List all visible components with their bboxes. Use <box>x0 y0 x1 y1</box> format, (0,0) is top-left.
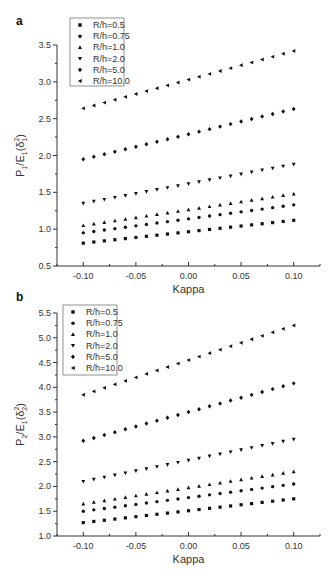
data-point <box>123 471 127 475</box>
legend-label: R/h=0.75 <box>86 318 123 328</box>
data-point <box>124 516 127 519</box>
data-point <box>165 365 169 369</box>
data-point <box>229 504 232 507</box>
data-point <box>186 358 190 362</box>
data-point <box>292 323 296 327</box>
axes: 1.01.52.02.53.03.54.04.55.05.5-0.10-0.05… <box>13 308 320 565</box>
data-point <box>239 448 243 452</box>
data-point <box>292 482 295 485</box>
data-point <box>102 386 106 390</box>
data-point <box>134 503 137 506</box>
data-point <box>123 427 127 431</box>
data-point <box>145 421 149 425</box>
data-point <box>197 355 201 359</box>
data-point <box>103 507 106 510</box>
data-point <box>123 379 127 383</box>
data-point <box>208 493 211 496</box>
data-point <box>250 446 254 450</box>
data-point <box>250 502 253 505</box>
chart-b-plot: 1.01.52.02.53.03.54.04.55.05.5-0.10-0.05… <box>0 0 336 583</box>
data-point <box>218 401 222 405</box>
y-tick-label: 4.5 <box>38 358 51 368</box>
data-point <box>113 474 117 478</box>
data-point <box>187 486 191 490</box>
data-point <box>281 471 285 475</box>
data-point <box>102 433 106 437</box>
data-point <box>176 487 180 491</box>
data-point <box>166 463 170 467</box>
data-point <box>113 497 117 501</box>
x-tick-label: 0.10 <box>285 541 303 551</box>
x-tick-label: 0.05 <box>232 541 250 551</box>
data-point <box>260 474 264 478</box>
legend-marker-icon <box>71 310 74 313</box>
data-point <box>207 351 211 355</box>
data-point <box>271 330 275 334</box>
data-point <box>240 503 243 506</box>
data-point <box>124 504 127 507</box>
x-tick-label: 0.00 <box>180 541 198 551</box>
data-point <box>92 508 95 511</box>
data-point <box>292 469 296 473</box>
data-point <box>197 508 200 511</box>
data-point <box>82 521 85 524</box>
data-point <box>197 484 201 488</box>
data-point <box>145 514 148 517</box>
data-point <box>92 389 96 393</box>
y-tick-label: 2.5 <box>38 457 51 467</box>
y-tick-label: 1.5 <box>38 506 51 516</box>
data-point <box>281 327 285 331</box>
data-point <box>260 444 264 448</box>
y-tick-label: 1.0 <box>38 531 51 541</box>
data-point <box>218 453 222 457</box>
chart-panel-b: b 1.01.52.02.53.03.54.04.55.05.5-0.10-0.… <box>0 0 336 583</box>
data-point <box>166 499 169 502</box>
legend: R/h=0.5R/h=0.75R/h=1.0R/h=2.0R/h=5.0R/h=… <box>63 305 123 375</box>
data-point <box>155 418 159 422</box>
data-point <box>176 461 180 465</box>
data-point <box>81 439 85 443</box>
data-point <box>145 467 149 471</box>
legend-marker-icon <box>71 321 75 325</box>
data-point <box>229 450 233 454</box>
data-point <box>176 497 179 500</box>
data-point <box>113 430 117 434</box>
data-point <box>250 476 254 480</box>
data-point <box>281 384 285 388</box>
data-point <box>261 501 264 504</box>
data-point <box>218 506 221 509</box>
data-point <box>92 520 95 523</box>
data-point <box>271 500 274 503</box>
data-point <box>208 404 212 408</box>
data-point <box>82 510 85 513</box>
legend-label: R/h=0.5 <box>86 307 118 317</box>
data-point <box>229 344 233 348</box>
data-point <box>218 492 221 495</box>
data-point <box>155 513 158 516</box>
data-point <box>239 478 243 482</box>
data-point <box>166 416 170 420</box>
legend-label: R/h=1.0 <box>86 329 118 339</box>
y-tick-label: 2.0 <box>38 481 51 491</box>
legend-label: R/h=10.0 <box>86 363 123 373</box>
data-point <box>176 510 179 513</box>
data-point <box>271 473 275 477</box>
data-point <box>134 469 138 473</box>
data-point <box>145 501 148 504</box>
data-point <box>144 372 148 376</box>
data-point <box>155 369 159 373</box>
data-point <box>292 381 296 385</box>
data-point <box>187 410 191 414</box>
data-point <box>176 362 180 366</box>
data-point <box>282 484 285 487</box>
series-r-h-5-0 <box>81 381 295 443</box>
data-point <box>134 376 138 380</box>
y-tick-label: 3.0 <box>38 432 51 442</box>
legend-label: R/h=2.0 <box>86 341 118 351</box>
data-point <box>197 495 200 498</box>
data-point <box>102 498 106 502</box>
data-point <box>92 500 96 504</box>
y-tick-label: 3.5 <box>38 407 51 417</box>
data-point <box>166 512 169 515</box>
data-point <box>282 498 285 501</box>
